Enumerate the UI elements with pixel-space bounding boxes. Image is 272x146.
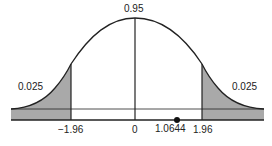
right-tail-label: 0.025	[232, 82, 257, 92]
tick-label-zero: 0	[132, 125, 138, 135]
center-area-label: 0.95	[124, 4, 143, 14]
tick-label-1-96: 1.96	[193, 125, 212, 135]
left-tail-region	[11, 64, 71, 120]
tick-label-neg-1-96: −1.96	[58, 125, 83, 135]
right-tail-region	[202, 64, 264, 120]
left-tail-label: 0.025	[18, 82, 43, 92]
tick-label-test-statistic: 1.0644	[155, 124, 186, 134]
